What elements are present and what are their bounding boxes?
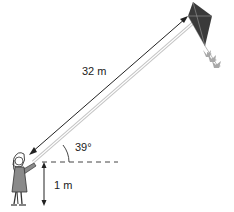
kite-diagram: [0, 0, 234, 212]
kite-tail-icon: [203, 46, 221, 68]
string-length-label: 32 m: [82, 66, 106, 77]
kite-string: [33, 23, 193, 162]
angle-label: 39°: [75, 142, 92, 153]
girl-figure-icon: [11, 153, 36, 205]
angle-arc: [63, 145, 69, 162]
height-label: 1 m: [54, 180, 72, 191]
height-dimension-arrow: [42, 162, 47, 206]
length-dimension-arrow: [29, 16, 188, 155]
